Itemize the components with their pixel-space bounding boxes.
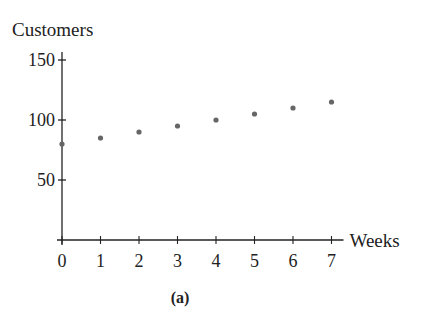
data-point [59,141,64,146]
x-axis-title: Weeks [350,230,400,251]
x-tick-label: 0 [58,251,67,271]
x-tick-label: 4 [212,251,221,271]
data-point [175,123,180,128]
x-tick-label: 3 [173,251,182,271]
data-point [213,117,218,122]
data-point [98,135,103,140]
data-point [252,111,257,116]
y-axis-title: Customers [12,19,93,40]
x-tick-label: 5 [250,251,259,271]
data-point [136,129,141,134]
y-tick-label: 150 [28,50,55,70]
x-tick-label: 7 [327,251,336,271]
x-tick-label: 2 [135,251,144,271]
y-tick-label: 100 [28,110,55,130]
x-tick-label: 6 [289,251,298,271]
figure-caption: (a) [171,289,190,307]
data-point [290,105,295,110]
scatter-chart: 5010015001234567CustomersWeeks(a) [0,0,433,324]
y-tick-label: 50 [37,170,55,190]
data-point [329,99,334,104]
x-tick-label: 1 [96,251,105,271]
